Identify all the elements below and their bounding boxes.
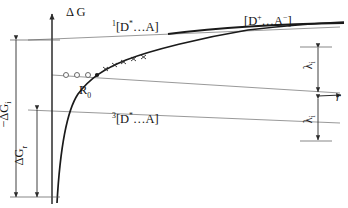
level-line-crossing [52,75,340,93]
level-line-singlet [28,27,340,40]
delta-g-r-label: ΔGr [13,146,28,166]
open-circle-marker [86,73,91,78]
diagram-svg [0,0,348,208]
level-line-triplet [28,110,340,123]
x-axis-label: r [336,91,341,103]
ion-pair-energy-curve [57,22,344,203]
level-label-triplet: 3[D*…A] [112,112,159,126]
open-circle-marker [64,73,69,78]
delta-g-i-label: −ΔGi [0,101,13,127]
open-circle-marker [75,73,80,78]
r0-label: R0 [79,84,91,99]
lambda-lower-label: λi [302,115,317,123]
lambda-upper-label: λi [302,61,317,69]
figure-canvas: Δ G r 1[D*…A] [D+…A−] 3[D*…A] R0 −ΔGi ΔG… [0,0,348,208]
crossing-point-marker [95,73,99,77]
level-label-singlet: 1[D*…A] [112,20,159,34]
level-label-ion-pair: [D+…A−] [244,14,292,28]
y-axis-label: Δ G [66,6,86,19]
